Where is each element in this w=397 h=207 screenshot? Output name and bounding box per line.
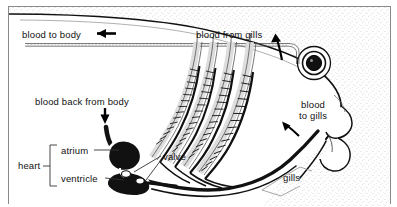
label-blood-to-gills: blood to gills: [299, 99, 327, 121]
label-blood-from-gills: blood from gills: [196, 29, 262, 40]
atrium-chamber: [108, 140, 141, 171]
label-gills: gills: [283, 172, 300, 183]
label-valve: valve: [163, 151, 186, 162]
label-blood-back-from-body: blood back from body: [35, 96, 129, 107]
label-atrium: atrium: [61, 145, 88, 156]
arrow-blood-to-gills: [282, 122, 299, 137]
arrow-blood-to-body: [97, 29, 116, 38]
dorsal-aorta-vessel: [25, 44, 299, 65]
fish-eye: [298, 47, 331, 80]
label-heart: heart: [18, 160, 40, 171]
atrioventricular-valve: [122, 171, 131, 177]
heart-bracket: [43, 145, 57, 186]
label-ventricle: ventricle: [61, 173, 98, 184]
label-blood-to-gills-line2: to gills: [299, 110, 327, 121]
label-blood-to-gills-line1: blood: [301, 99, 325, 110]
figure-root: blood to body blood from gills blood bac…: [0, 0, 397, 207]
label-blood-to-body: blood to body: [22, 29, 81, 40]
outflow-valve: [136, 178, 144, 184]
arrow-blood-back-from-body: [101, 108, 110, 124]
